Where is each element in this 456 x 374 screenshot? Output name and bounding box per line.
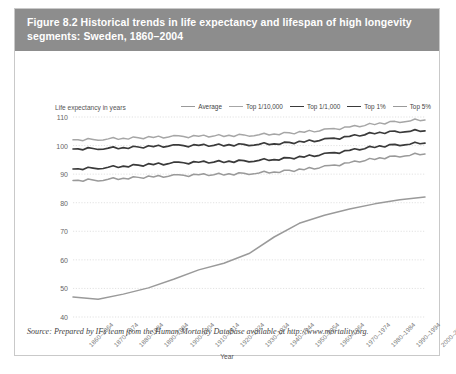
y-axis-title: Life expectancy in years — [55, 104, 126, 111]
y-axis-tick-label: 70 — [46, 228, 68, 235]
legend-label: Average — [198, 103, 222, 110]
legend-item[interactable]: Top 1% — [347, 103, 385, 110]
legend-label: Top 5% — [410, 103, 431, 110]
y-axis-tick-label: 80 — [46, 199, 68, 206]
y-axis-tick-label: 40 — [46, 314, 68, 321]
y-axis-tick-label: 60 — [46, 256, 68, 263]
plot-area: 4050607080901001101860–18641870–18741880… — [73, 117, 425, 317]
y-axis-tick-label: 50 — [46, 285, 68, 292]
legend-line-icon — [290, 106, 304, 107]
legend-item[interactable]: Average — [181, 103, 222, 110]
series-line — [73, 197, 425, 299]
legend-item[interactable]: Top 1/1,000 — [290, 103, 340, 110]
legend-line-icon — [181, 106, 195, 107]
x-axis-title: Year — [15, 353, 439, 360]
legend-line-icon — [229, 106, 243, 107]
legend-label: Top 1% — [364, 103, 385, 110]
legend-line-icon — [347, 106, 361, 107]
legend-item[interactable]: Top 1/10,000 — [229, 103, 283, 110]
series-line — [73, 119, 425, 141]
y-axis-tick-label: 90 — [46, 171, 68, 178]
y-axis-tick-label: 110 — [46, 114, 68, 121]
legend-label: Top 1/1,000 — [307, 103, 340, 110]
figure-title: Figure 8.2 Historical trends in life exp… — [15, 9, 439, 51]
plot-svg — [73, 117, 425, 317]
legend-label: Top 1/10,000 — [246, 103, 283, 110]
y-axis-tick-label: 100 — [46, 142, 68, 149]
chart-body: Life expectancy in years AverageTop 1/10… — [15, 51, 439, 338]
source-note: Source: Prepared by IFs team from the Hu… — [27, 327, 429, 336]
legend-item[interactable]: Top 5% — [393, 103, 431, 110]
figure-panel: Figure 8.2 Historical trends in life exp… — [14, 8, 440, 356]
chart-legend: AverageTop 1/10,000Top 1/1,000Top 1%Top … — [165, 103, 431, 110]
legend-line-icon — [393, 106, 407, 107]
